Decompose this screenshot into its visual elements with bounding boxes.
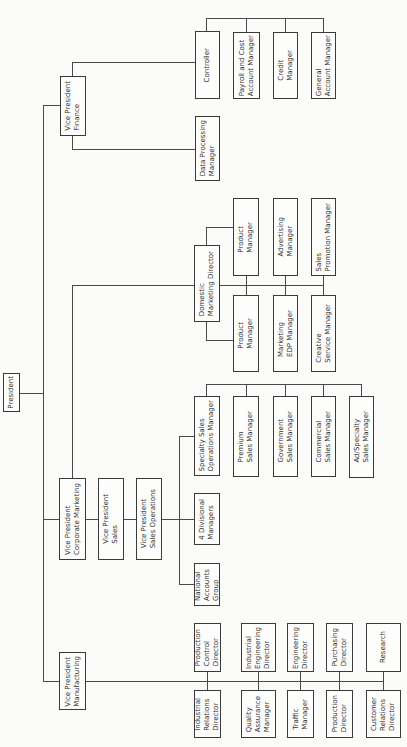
sales-promotion-box: Sales Promotion Manager [311, 198, 336, 276]
box-label: Specialty Sales Operations Manager [198, 400, 216, 471]
box-label: Product Manager [237, 222, 255, 253]
connector [72, 285, 194, 286]
connector [179, 436, 194, 437]
box-label: Customer Relations Director [370, 697, 397, 731]
connector [206, 227, 207, 245]
connector [206, 18, 323, 19]
box-label: Vice President Manufacturing [64, 656, 82, 707]
connector [179, 584, 194, 585]
connector [43, 105, 44, 682]
connector [72, 136, 73, 149]
president-box: President [3, 373, 20, 412]
connector [323, 276, 324, 295]
controller-box: Controller [195, 31, 220, 99]
connector [206, 18, 207, 31]
commercial-sales-box: Commercial Sales Manager [311, 396, 336, 477]
production-director-box: Production Director [326, 690, 353, 738]
box-label: National Accounts Group [194, 569, 221, 601]
vp-sales-operations-box: Vice President Sales Operations [136, 478, 162, 560]
box-label: Sales Promotion Manager [315, 203, 333, 272]
box-label: Production Director [331, 695, 349, 732]
box-label: Domestic Marketing Director [198, 251, 216, 316]
connector [43, 681, 59, 682]
engineering-director-box: Engineering Director [287, 623, 314, 672]
government-sales-box: Government Sales Manager [273, 396, 298, 477]
box-label: Creative Service Manager [315, 304, 333, 363]
connector [20, 393, 43, 394]
connector [246, 384, 247, 396]
connector [323, 384, 324, 396]
box-label: Quality Assurance Manager [245, 696, 272, 732]
box-label: Advertising Manager [277, 217, 295, 257]
box-label: Engineering Director [292, 627, 310, 669]
connector [285, 384, 286, 396]
connector [72, 62, 73, 76]
box-label: Vice President Sales Operations [140, 489, 158, 548]
box-label: 4 Divisional Managers [198, 499, 216, 540]
connector [300, 672, 301, 690]
connector [361, 384, 362, 396]
divisional-managers-box: 4 Divisional Managers [194, 493, 220, 545]
box-label: Marketing EDP Manager [277, 310, 295, 357]
box-label: Industrial Relations Director [194, 698, 221, 731]
connector [206, 322, 207, 340]
connector [246, 18, 247, 32]
box-label: Payroll and Cost Account Manager [238, 35, 256, 96]
connector [162, 519, 194, 520]
connector [72, 62, 195, 63]
vp-manufacturing-box: Vice President Manufacturing [59, 652, 86, 710]
box-label: Research [379, 631, 388, 663]
box-label: Vice President Sales [102, 494, 120, 544]
connector [124, 519, 136, 520]
box-label: Production Control Director [194, 629, 221, 666]
connector [383, 672, 384, 690]
industrial-engineering-box: Industrial Engineering Director [241, 623, 276, 672]
payroll-box: Payroll and Cost Account Manager [233, 32, 260, 99]
connector [43, 105, 60, 106]
traffic-manager-box: Traffic Manager [287, 690, 314, 738]
box-label: Purchasing Director [331, 628, 349, 666]
connector [258, 672, 259, 690]
connector [72, 149, 195, 150]
connector [206, 384, 207, 396]
creative-service-box: Creative Service Manager [311, 295, 336, 372]
box-label: Industrial Engineering Director [245, 627, 272, 669]
domestic-marketing-box: Domestic Marketing Director [194, 245, 220, 322]
general-account-box: General Account Manager [311, 32, 336, 99]
box-label: Government Sales Manager [277, 411, 295, 463]
box-label: Product Manager [237, 318, 255, 349]
connector [86, 519, 98, 520]
box-label: Controller [203, 48, 212, 82]
quality-assurance-box: Quality Assurance Manager [241, 690, 276, 738]
connector [43, 519, 59, 520]
vp-finance-box: Vice President Finance [60, 76, 86, 136]
connector [246, 276, 247, 295]
customer-relations-box: Customer Relations Director [366, 690, 401, 738]
purchasing-director-box: Purchasing Director [326, 623, 353, 672]
marketing-edp-box: Marketing EDP Manager [273, 295, 298, 372]
box-label: Premium Sales Manager [237, 411, 255, 463]
box-label: Credit Manager [277, 50, 295, 81]
box-label: President [7, 376, 16, 409]
advertising-box: Advertising Manager [273, 198, 298, 276]
connector [220, 285, 323, 286]
box-label: General Account Manager [315, 35, 333, 96]
product-manager-top-box: Product Manager [233, 198, 259, 276]
production-control-box: Production Control Director [194, 623, 221, 672]
data-processing-box: Data Processing Manager [195, 116, 220, 181]
box-label: Traffic Manager [292, 699, 310, 730]
connector [179, 436, 180, 584]
box-label: Commercial Sales Manager [315, 411, 333, 463]
connector [339, 672, 340, 690]
connector [285, 18, 286, 32]
national-accounts-box: National Accounts Group [194, 563, 220, 606]
research-box: Research [366, 623, 401, 672]
specialty-ops-box: Specialty Sales Operations Manager [194, 396, 220, 476]
vp-sales-box: Vice President Sales [98, 478, 124, 560]
box-label: Ad/Specialty Sales Manager [353, 411, 371, 463]
connector [206, 340, 233, 341]
premium-sales-box: Premium Sales Manager [233, 396, 259, 477]
connector [72, 285, 73, 478]
box-label: Vice President Finance [64, 81, 82, 131]
ad-specialty-sales-box: Ad/Specialty Sales Manager [349, 396, 374, 478]
